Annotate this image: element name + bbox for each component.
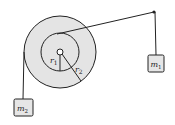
mass-m1: m1 — [148, 55, 164, 72]
rope-to-m2 — [23, 52, 24, 99]
mass-m2: m2 — [14, 99, 33, 116]
rope-to-m1 — [155, 12, 156, 55]
pulley-diagram: r1 r2 m1 m2 — [0, 0, 175, 125]
